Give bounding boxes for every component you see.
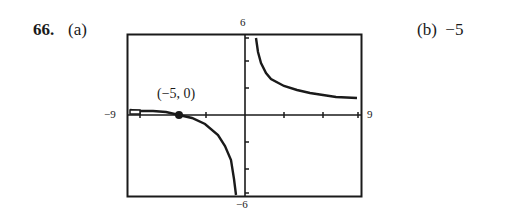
zero-point-marker xyxy=(175,111,183,119)
left-branch-curve xyxy=(130,110,236,195)
graph-plot xyxy=(0,0,508,219)
left-edge-marker xyxy=(130,110,140,114)
right-branch-curve xyxy=(256,38,357,98)
